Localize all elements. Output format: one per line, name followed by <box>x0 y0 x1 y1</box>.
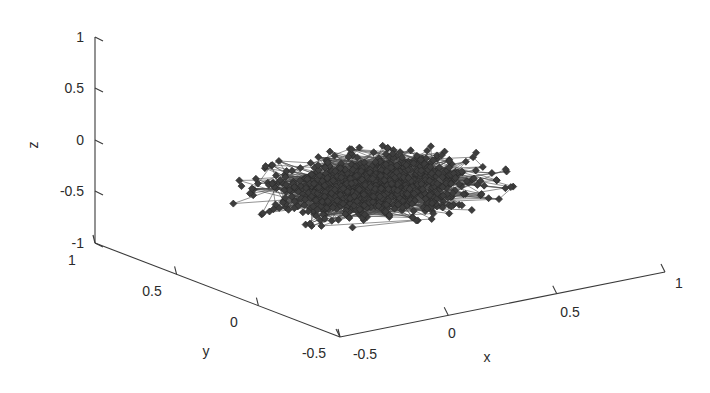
y-tick-label-neg0.5: -0.5 <box>302 345 326 361</box>
tick-mark <box>95 191 103 195</box>
graph-node-marker <box>446 210 453 217</box>
graph-node-marker <box>289 167 296 174</box>
x-tick-label-neg0.5: -0.5 <box>353 346 377 362</box>
y-axis-label: y <box>203 343 210 359</box>
tick-mark <box>95 37 103 41</box>
z-tick-label-0.5: 0.5 <box>65 80 85 96</box>
y-tick-labels: 1 0.5 0 -0.5 <box>68 252 326 361</box>
x-tick-label-0.5: 0.5 <box>560 304 580 320</box>
y-tick-label-1: 1 <box>68 252 76 268</box>
graph-node-marker <box>315 154 322 161</box>
graph-nodes <box>230 142 517 231</box>
tick-mark <box>444 307 448 315</box>
x-tick-labels: -0.5 0 0.5 1 <box>353 275 683 362</box>
x-axis-line <box>340 272 665 337</box>
x-tick-label-0: 0 <box>448 325 456 341</box>
tick-mark <box>95 140 103 144</box>
graph-node-marker <box>468 207 475 214</box>
graph-node-marker <box>488 170 495 177</box>
z-tick-label-1: 1 <box>76 29 84 45</box>
z-axis-label: z <box>25 142 41 149</box>
tick-mark <box>553 286 557 294</box>
plot-canvas: 1 0.5 0 -0.5 -1 1 0.5 0 -0.5 -0.5 0 0.5 … <box>0 0 710 393</box>
x-axis-label: x <box>484 349 491 365</box>
y-tick-label-0: 0 <box>230 314 238 330</box>
tick-mark <box>95 88 103 92</box>
tick-mark <box>661 264 665 272</box>
z-tick-label-0: 0 <box>76 132 84 148</box>
z-tick-label-neg0.5: -0.5 <box>60 183 84 199</box>
graph-node-marker <box>349 224 356 231</box>
z-tick-label-neg1: -1 <box>72 235 85 251</box>
matlab-3d-plot-figure: 1 0.5 0 -0.5 -1 1 0.5 0 -0.5 -0.5 0 0.5 … <box>0 0 710 393</box>
graph-node-marker <box>230 200 237 207</box>
x-tick-label-1: 1 <box>675 275 683 291</box>
graph-node-marker <box>275 158 282 165</box>
z-tick-labels: 1 0.5 0 -0.5 -1 <box>60 29 84 251</box>
y-tick-label-0.5: 0.5 <box>142 283 162 299</box>
graph-node-marker <box>485 195 492 202</box>
tick-mark <box>95 243 103 247</box>
y-axis-line <box>95 243 340 337</box>
